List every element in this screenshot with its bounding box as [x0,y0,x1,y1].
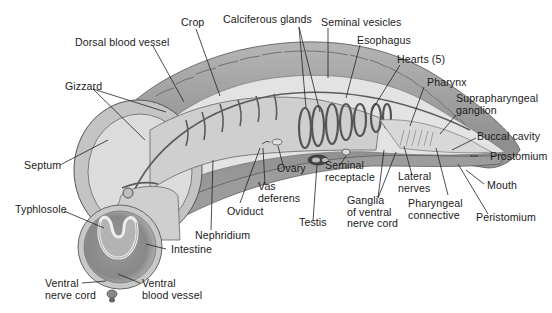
label-testis: Testis [299,217,327,229]
label-crop: Crop [181,17,204,29]
label-ventral-nerve-cord-line2: nerve cord [45,290,96,302]
label-nephridium: Nephridium [195,230,250,242]
label-ganglia-ventral-nerve-cord: Ganglia of ventral nerve cord [347,195,398,230]
label-ventral-nerve-cord: Ventral nerve cord [45,278,96,301]
label-esophagus: Esophagus [357,35,411,47]
label-prostomium: Prostomium [490,151,548,163]
label-oviduct: Oviduct [227,206,264,218]
label-ventral-blood-vessel-line2: blood vessel [142,290,202,302]
label-typhlosole: Typhlosole [15,204,67,216]
label-ventral-blood-vessel-line1: Ventral [142,278,202,290]
label-lateral-nerves-line1: Lateral [398,171,431,183]
label-pharynx: Pharynx [427,77,467,89]
label-suprapharyngeal-line1: Suprapharyngeal [456,93,538,105]
label-vas-deferens-line2: deferens [258,193,300,205]
label-seminal-receptacle: Seminal receptacle [325,160,375,183]
label-seminal-receptacle-line1: Seminal [325,160,375,172]
label-ganglia-line1: Ganglia [347,195,398,207]
label-calciferous-glands: Calciferous glands [223,14,312,26]
label-pharyngeal-connective-line2: connective [408,210,463,222]
label-suprapharyngeal-ganglion: Suprapharyngeal ganglion [456,93,538,116]
label-suprapharyngeal-line2: ganglion [456,105,538,117]
label-mouth: Mouth [487,180,517,192]
label-pharyngeal-connective-line1: Pharyngeal [408,198,463,210]
label-ovary: Ovary [277,163,306,175]
label-pharyngeal-connective: Pharyngeal connective [408,198,463,221]
label-peristomium: Peristomium [476,212,536,224]
label-hearts: Hearts (5) [397,54,445,66]
label-septum: Septum [24,160,61,172]
label-ganglia-line3: nerve cord [347,218,398,230]
label-gizzard: Gizzard [65,81,102,93]
label-ventral-nerve-cord-line1: Ventral [45,278,96,290]
label-intestine: Intestine [171,244,212,256]
label-ventral-blood-vessel: Ventral blood vessel [142,278,202,301]
earthworm-anatomy-diagram: Crop Calciferous glands Seminal vesicles… [0,0,552,313]
label-vas-deferens-line1: Vas [258,181,300,193]
label-vas-deferens: Vas deferens [258,181,300,204]
label-lateral-nerves: Lateral nerves [398,171,431,194]
label-dorsal-blood-vessel: Dorsal blood vessel [75,37,169,49]
label-seminal-receptacle-line2: receptacle [325,172,375,184]
label-seminal-vesicles: Seminal vesicles [321,17,402,29]
label-buccal-cavity: Buccal cavity [477,131,540,143]
label-lateral-nerves-line2: nerves [398,183,431,195]
